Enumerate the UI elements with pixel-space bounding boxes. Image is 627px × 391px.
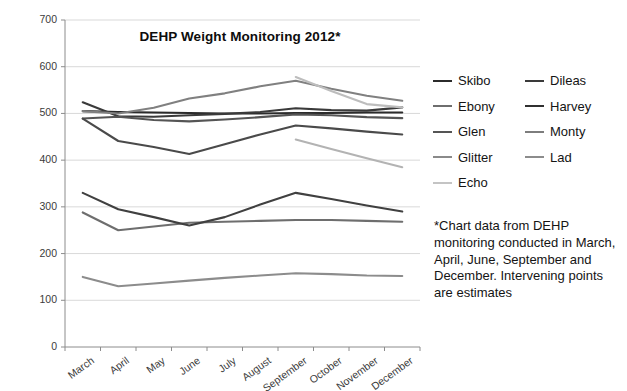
legend-label: Glen [458,124,485,139]
y-axis-label: 200 [17,247,57,259]
y-axis-label: 300 [17,200,57,212]
legend-swatch-icon [433,80,452,82]
legend-label: Harvey [550,99,591,114]
series-line-echo-lower [296,140,403,168]
legend-item-glitter[interactable]: Glitter [433,145,525,171]
series-lines [83,77,403,286]
y-axis-label: 500 [17,106,57,118]
legend-column: SkiboEbonyGlenGlitterEcho [433,68,525,196]
legend-label: Monty [550,124,585,139]
legend-swatch-icon [433,105,452,107]
legend-item-ebony[interactable]: Ebony [433,94,525,120]
y-axis-label: 100 [17,293,57,305]
axis-lines [61,20,420,347]
legend-swatch-icon [525,105,544,107]
legend-item-harvey[interactable]: Harvey [525,94,625,120]
legend-swatch-icon [433,156,452,158]
x-axis-ticks [65,347,420,351]
legend-swatch-icon [525,156,544,158]
series-line-glitter [83,119,403,155]
chart-title: DEHP Weight Monitoring 2012* [100,29,380,44]
line-chart: DEHP Weight Monitoring 2012* 01002003004… [0,0,430,391]
legend-item-skibo[interactable]: Skibo [433,68,525,94]
legend-item-echo[interactable]: Echo [433,170,525,196]
legend-swatch-icon [433,182,452,184]
legend-item-lad[interactable]: Lad [525,145,625,171]
legend-label: Glitter [458,150,493,165]
legend-item-monty[interactable]: Monty [525,119,625,145]
y-axis-label: 600 [17,60,57,72]
legend-swatch-icon [525,80,544,82]
legend-label: Lad [550,150,572,165]
legend-label: Dileas [550,73,586,88]
series-line-dileas [83,102,403,116]
series-line-lad [83,273,403,286]
chart-legend: SkiboEbonyGlenGlitterEchoDileasHarveyMon… [433,68,627,196]
legend-item-dileas[interactable]: Dileas [525,68,625,94]
chart-footnote: *Chart data from DEHP monitoring conduct… [434,218,620,302]
legend-label: Echo [458,175,488,190]
legend-item-glen[interactable]: Glen [433,119,525,145]
y-axis-label: 700 [17,13,57,25]
legend-swatch-icon [525,131,544,133]
legend-column: DileasHarveyMontyLad [525,68,625,170]
chart-canvas [0,0,430,391]
legend-swatch-icon [433,131,452,133]
gridlines [65,20,420,300]
y-axis-label: 0 [17,340,57,352]
series-line-monty [83,81,403,114]
series-line-ebony [83,212,403,230]
y-axis-label: 400 [17,153,57,165]
chart-page: DEHP Weight Monitoring 2012* 01002003004… [0,0,627,391]
legend-label: Ebony [458,99,495,114]
legend-label: Skibo [458,73,491,88]
